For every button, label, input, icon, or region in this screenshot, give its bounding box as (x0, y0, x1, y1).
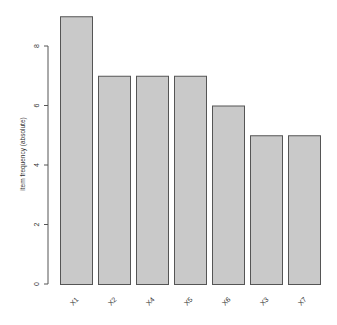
y-tick-label: 6 (33, 103, 40, 107)
bar-x4 (137, 76, 169, 284)
bar-x7 (289, 136, 321, 285)
y-tick-label: 2 (33, 222, 40, 226)
bars (61, 17, 321, 285)
x-tick-label: X4 (145, 296, 156, 307)
x-tick-label: X3 (259, 296, 270, 307)
y-tick-label: 8 (33, 44, 40, 48)
y-tick-label: 4 (33, 163, 40, 167)
x-tick-label: X6 (221, 296, 232, 307)
x-tick-label: X1 (69, 296, 80, 307)
y-axis: 02468 (33, 44, 48, 286)
bar-x5 (175, 76, 207, 284)
y-tick-label: 0 (33, 282, 40, 286)
bar-chart: 02468 item frequency (absolute) X1X2X4X5… (0, 0, 337, 325)
bar-x3 (251, 136, 283, 285)
bar-x2 (99, 76, 131, 284)
bar-x6 (213, 106, 245, 285)
x-axis-labels: X1X2X4X5X6X3X7 (69, 296, 308, 307)
y-axis-label: item frequency (absolute) (19, 117, 27, 190)
x-tick-label: X5 (183, 296, 194, 307)
x-tick-label: X7 (297, 296, 308, 307)
bar-x1 (61, 17, 93, 285)
x-tick-label: X2 (107, 296, 118, 307)
